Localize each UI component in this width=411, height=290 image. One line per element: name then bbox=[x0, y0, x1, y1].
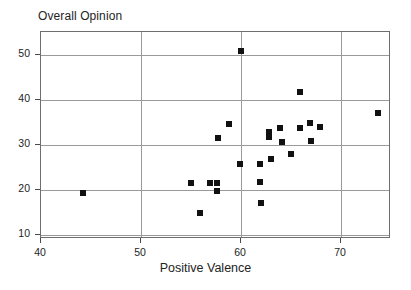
data-point bbox=[297, 125, 303, 131]
data-point bbox=[188, 180, 194, 186]
data-point bbox=[237, 161, 243, 167]
y-tick-label: 40 bbox=[4, 92, 30, 104]
gridline-horizontal bbox=[41, 145, 389, 146]
gridline-vertical bbox=[241, 32, 242, 237]
x-tick-label: 60 bbox=[227, 246, 253, 258]
plot-area bbox=[40, 31, 390, 238]
data-point bbox=[297, 89, 303, 95]
data-point bbox=[197, 210, 203, 216]
data-point bbox=[277, 125, 283, 131]
y-tick-label: 20 bbox=[4, 182, 30, 194]
y-tick-mark bbox=[35, 234, 40, 235]
y-tick-mark bbox=[35, 144, 40, 145]
data-point bbox=[317, 124, 323, 130]
y-tick-label: 10 bbox=[4, 227, 30, 239]
x-tick-label: 70 bbox=[327, 246, 353, 258]
x-tick-label: 50 bbox=[127, 246, 153, 258]
gridline-vertical bbox=[141, 32, 142, 237]
data-point bbox=[257, 179, 263, 185]
y-tick-mark bbox=[35, 189, 40, 190]
data-point bbox=[258, 200, 264, 206]
y-tick-mark bbox=[35, 99, 40, 100]
y-tick-label: 30 bbox=[4, 137, 30, 149]
data-point bbox=[214, 180, 220, 186]
data-point bbox=[375, 110, 381, 116]
x-tick-label: 40 bbox=[27, 246, 53, 258]
x-tick-mark bbox=[140, 238, 141, 243]
data-point bbox=[238, 48, 244, 54]
y-tick-label: 50 bbox=[4, 47, 30, 59]
gridline-horizontal bbox=[41, 55, 389, 56]
gridline-horizontal bbox=[41, 100, 389, 101]
scatter-plot-screenshot: Overall Opinion 1020304050 40506070 Posi… bbox=[0, 0, 411, 290]
x-tick-mark bbox=[40, 238, 41, 243]
x-tick-mark bbox=[240, 238, 241, 243]
data-point bbox=[257, 161, 263, 167]
data-point bbox=[266, 134, 272, 140]
data-point bbox=[207, 180, 213, 186]
data-point bbox=[307, 120, 313, 126]
data-point bbox=[268, 156, 274, 162]
data-point bbox=[288, 151, 294, 157]
gridline-horizontal bbox=[41, 235, 389, 236]
x-axis-label: Positive Valence bbox=[0, 261, 411, 275]
data-point bbox=[80, 190, 86, 196]
data-point bbox=[279, 139, 285, 145]
gridline-vertical bbox=[341, 32, 342, 237]
page-title: Overall Opinion bbox=[38, 9, 122, 23]
x-tick-mark bbox=[340, 238, 341, 243]
data-point bbox=[215, 135, 221, 141]
data-point bbox=[214, 188, 220, 194]
data-point bbox=[226, 121, 232, 127]
y-tick-mark bbox=[35, 54, 40, 55]
data-point bbox=[308, 138, 314, 144]
